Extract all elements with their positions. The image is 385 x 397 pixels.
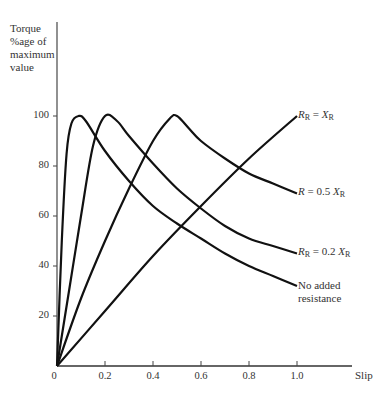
x-tick-label: 0.4 <box>138 370 168 381</box>
label-no-added-resistance: resistance <box>298 292 341 304</box>
x-axis-label: Slip <box>355 369 373 381</box>
y-tick-label: 60 <box>19 209 49 220</box>
y-tick-label: 40 <box>19 259 49 270</box>
label-r-0-5-xr: R = 0.5 XR <box>298 185 345 201</box>
x-tick-label: 0.2 <box>90 370 120 381</box>
y-axis-label: maximum <box>10 48 55 60</box>
label-rr-0-2-xr: RR = 0.2 XR <box>298 245 350 261</box>
y-tick-label: 80 <box>19 159 49 170</box>
label-rr-equals-xr: RR = XR <box>298 108 334 124</box>
curve-no-added-resistance <box>57 116 297 366</box>
y-tick-label: 20 <box>19 309 49 320</box>
x-tick-label: 1.0 <box>282 370 312 381</box>
label-no-added-resistance: No added <box>298 279 340 291</box>
curve-r-0-5-xr <box>57 115 297 366</box>
x-tick-label: 0.6 <box>186 370 216 381</box>
x-tick-label: 0.8 <box>234 370 264 381</box>
y-tick-label: 100 <box>19 109 49 120</box>
y-axis-label: %age of <box>10 35 46 47</box>
x-tick-label: 0 <box>39 370 69 381</box>
curve-rr-0-2-xr <box>57 115 297 366</box>
y-axis-label: value <box>10 61 34 73</box>
curve-rr-equals-xr <box>57 116 297 366</box>
y-axis-label: Torque <box>10 22 41 34</box>
